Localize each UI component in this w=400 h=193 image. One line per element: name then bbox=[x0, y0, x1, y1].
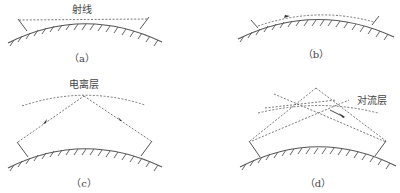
antenna-right bbox=[375, 141, 386, 156]
caption-b: （b） bbox=[303, 49, 329, 60]
earth-surface bbox=[238, 19, 394, 39]
earth-surface bbox=[240, 147, 396, 167]
earth-hatching bbox=[10, 24, 158, 46]
scatter-ray bbox=[250, 88, 316, 141]
panel-b: （b） bbox=[238, 15, 394, 60]
antenna-left bbox=[251, 20, 258, 28]
caption-c: （c） bbox=[71, 178, 97, 189]
panel-a: 射线 （a） bbox=[8, 3, 162, 64]
antenna-left bbox=[18, 19, 27, 31]
caption-d: （d） bbox=[305, 178, 331, 189]
propagation-diagram: 射线 （a） （b） bbox=[0, 0, 400, 193]
label-ionosphere: 电离层 bbox=[69, 78, 99, 90]
antenna-left bbox=[249, 141, 260, 157]
label-ray: 射线 bbox=[72, 3, 92, 15]
scatter-ray bbox=[265, 100, 336, 108]
ray-down bbox=[84, 96, 151, 141]
panel-d: 对流层 （d） bbox=[240, 88, 396, 189]
earth-hatching bbox=[242, 148, 390, 170]
label-troposphere: 对流层 bbox=[357, 94, 387, 106]
panel-c: 电离层 （c） bbox=[8, 78, 162, 189]
ray-up bbox=[18, 96, 84, 142]
arrow-icon bbox=[284, 15, 290, 18]
earth-surface bbox=[8, 24, 162, 43]
antenna-right bbox=[372, 16, 379, 25]
arrow-shaft bbox=[330, 110, 344, 117]
earth-hatching bbox=[240, 20, 388, 42]
arrow-icon bbox=[43, 119, 47, 124]
ionosphere-layer bbox=[22, 95, 145, 106]
earth-hatching bbox=[10, 149, 158, 171]
antenna-left bbox=[17, 142, 28, 157]
earth-surface bbox=[8, 149, 162, 168]
antenna-right bbox=[141, 141, 152, 156]
antenna-right bbox=[140, 17, 149, 29]
caption-a: （a） bbox=[69, 53, 95, 64]
ray-line bbox=[19, 19, 148, 20]
